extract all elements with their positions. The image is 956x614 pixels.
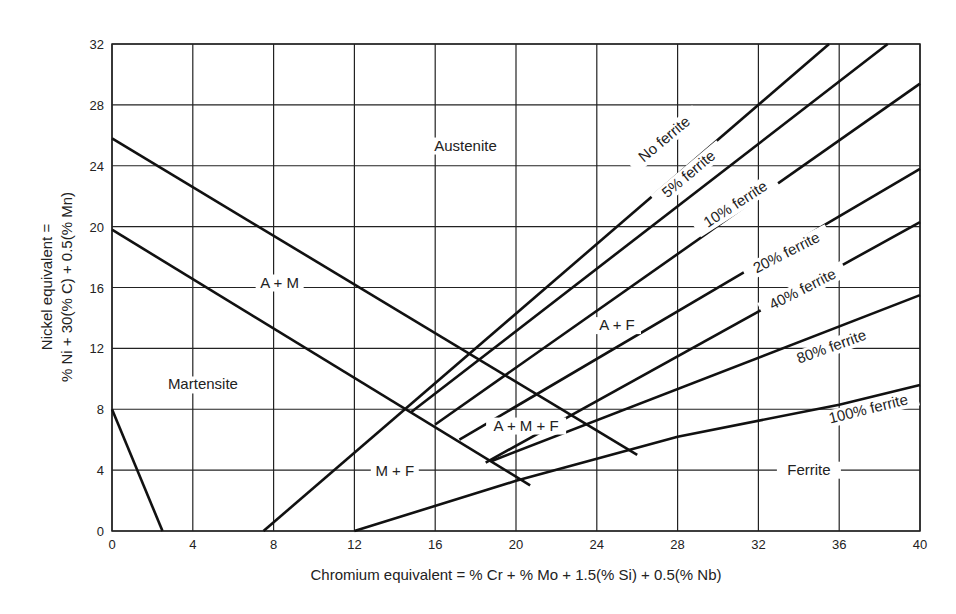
- boundary-line: [112, 230, 530, 486]
- y-tick-label: 32: [90, 37, 104, 52]
- region-label: A + F: [599, 316, 634, 333]
- y-axis-label-line2: % Ni + 30(% C) + 0.5(% Mn): [58, 192, 75, 382]
- y-tick-label: 8: [97, 402, 104, 417]
- x-tick-label: 16: [428, 537, 442, 552]
- svg-text:40% ferrite: 40% ferrite: [766, 265, 838, 313]
- svg-text:5% ferrite: 5% ferrite: [658, 147, 718, 201]
- x-axis-label: Chromium equivalent = % Cr + % Mo + 1.5(…: [311, 566, 722, 583]
- x-tick-label: 4: [189, 537, 196, 552]
- y-axis-label-line1: Nickel equivalent =: [38, 224, 55, 351]
- region-label: Austenite: [434, 137, 497, 154]
- boundary-line: [492, 295, 920, 461]
- region-label: A + M + F: [494, 417, 559, 434]
- x-tick-label: 12: [347, 537, 361, 552]
- region-label: A + M: [260, 274, 299, 291]
- x-tick-label: 24: [590, 537, 604, 552]
- x-tick-label: 40: [913, 537, 927, 552]
- y-tick-label: 28: [90, 98, 104, 113]
- y-tick-label: 4: [97, 463, 104, 478]
- x-tick-label: 28: [670, 537, 684, 552]
- y-tick-label: 16: [90, 281, 104, 296]
- x-tick-label: 32: [751, 537, 765, 552]
- region-label: Ferrite: [787, 461, 830, 478]
- schaeffler-diagram: 0481216202428323640048121620242832 Auste…: [0, 0, 956, 614]
- ferrite-line-label: 10% ferrite: [691, 171, 780, 237]
- x-tick-label: 0: [108, 537, 115, 552]
- region-label: M + F: [375, 462, 414, 479]
- region-labels: AusteniteA + MMartensiteA + FA + M + FM …: [159, 137, 841, 481]
- region-label: Martensite: [168, 375, 238, 392]
- svg-text:20% ferrite: 20% ferrite: [750, 228, 822, 276]
- svg-text:10% ferrite: 10% ferrite: [700, 177, 770, 231]
- y-tick-label: 24: [90, 159, 104, 174]
- x-tick-label: 36: [832, 537, 846, 552]
- y-tick-label: 12: [90, 341, 104, 356]
- y-tick-label: 20: [90, 220, 104, 235]
- x-tick-label: 20: [509, 537, 523, 552]
- ferrite-line-label: 100% ferrite: [817, 388, 920, 430]
- boundary-line: [112, 138, 637, 455]
- svg-text:No ferrite: No ferrite: [635, 112, 693, 165]
- ferrite-line-labels: No ferrite5% ferrite10% ferrite20% ferri…: [626, 105, 920, 430]
- boundary-line: [354, 385, 920, 531]
- x-tick-label: 8: [270, 537, 277, 552]
- y-tick-label: 0: [97, 524, 104, 539]
